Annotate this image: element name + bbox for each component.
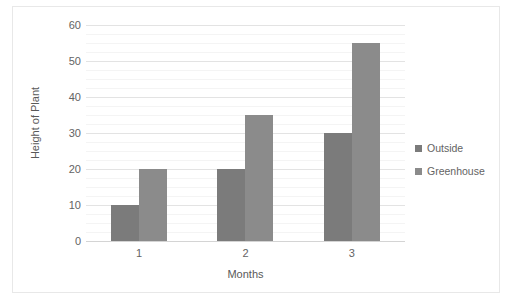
legend-label: Outside [427, 142, 463, 154]
y-axis-tick-label: 10 [45, 200, 81, 211]
bar-group [192, 25, 298, 241]
chart-legend: OutsideGreenhouse [415, 139, 499, 185]
y-axis-tick-label: 30 [45, 128, 81, 139]
bar [245, 115, 273, 241]
x-axis-title: Months [86, 268, 405, 280]
legend-label: Greenhouse [427, 165, 485, 177]
bar [217, 169, 245, 241]
y-axis-title: Height of Plant [29, 63, 41, 183]
y-axis-tick-label: 50 [45, 56, 81, 67]
legend-item[interactable]: Greenhouse [415, 162, 499, 180]
bar [111, 205, 139, 241]
y-axis-tick-labels: 0102030405060 [37, 25, 81, 241]
bar [139, 169, 167, 241]
x-axis-tick-labels: 123 [86, 246, 405, 262]
plot-area [86, 25, 405, 241]
x-axis-tick-label: 2 [192, 246, 298, 260]
legend-swatch-icon [415, 168, 422, 175]
x-axis-tick-label: 3 [299, 246, 405, 260]
bar [352, 43, 380, 241]
legend-swatch-icon [415, 145, 422, 152]
chart-container: 0102030405060 Height of Plant 123 Months… [12, 6, 500, 293]
y-axis-tick-label: 40 [45, 92, 81, 103]
legend-item[interactable]: Outside [415, 139, 499, 157]
x-axis-line [86, 241, 405, 242]
bar [324, 133, 352, 241]
bars-layer [86, 25, 405, 241]
y-axis-tick-label: 20 [45, 164, 81, 175]
bar-group [86, 25, 192, 241]
y-axis-tick-label: 60 [45, 20, 81, 31]
x-axis-tick-label: 1 [86, 246, 192, 260]
y-axis-tick-label: 0 [45, 236, 81, 247]
bar-group [299, 25, 405, 241]
